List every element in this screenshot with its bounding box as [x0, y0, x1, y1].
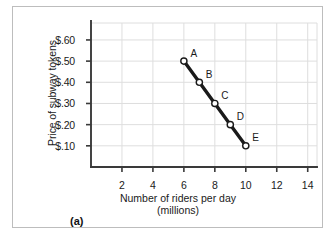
- x-axis-title-main: Number of riders per day: [120, 192, 236, 204]
- grid-lines: [91, 23, 317, 167]
- data-point-b: [196, 79, 202, 85]
- data-point-label-b: B: [206, 69, 213, 80]
- axis-tick-marks: [86, 40, 308, 172]
- plot-area: ABCDE: [79, 19, 319, 181]
- x-axis-title: Number of riders per day (millions): [53, 193, 303, 216]
- y-axis-tick-label: $.30: [27, 97, 75, 109]
- figure-frame: Price of subway tokens $.10$.20$.30$.40$…: [12, 6, 323, 228]
- data-point-label-e: E: [252, 132, 259, 143]
- data-point-e: [243, 143, 249, 149]
- data-point-c: [212, 100, 218, 106]
- y-axis-tick-label: $.10: [27, 140, 75, 152]
- x-axis-tick-label: 14: [295, 179, 321, 191]
- demand-curve-chart: ABCDE: [79, 19, 319, 181]
- y-axis-tick-label: $.60: [27, 34, 75, 46]
- data-point-labels: ABCDE: [190, 48, 259, 144]
- y-axis-tick-label: $.40: [27, 76, 75, 88]
- axis-lines: [91, 21, 317, 167]
- y-axis-tick-label: $.20: [27, 119, 75, 131]
- data-point-label-c: C: [221, 90, 228, 101]
- x-axis-tick-label: 8: [202, 179, 228, 191]
- panel-caption: (a): [70, 215, 83, 227]
- data-point-label-d: D: [237, 111, 244, 122]
- x-axis-tick-label: 12: [264, 179, 290, 191]
- x-axis-tick-label: 4: [140, 179, 166, 191]
- x-axis-tick-label: 6: [171, 179, 197, 191]
- data-point-a: [181, 58, 187, 64]
- x-axis-tick-label: 10: [233, 179, 259, 191]
- x-axis-title-unit: (millions): [53, 205, 303, 217]
- data-point-d: [227, 122, 233, 128]
- x-axis-tick-label: 2: [109, 179, 135, 191]
- y-axis-tick-label: $.50: [27, 55, 75, 67]
- data-point-label-a: A: [190, 48, 197, 59]
- y-axis-tick-label-group: $.10$.20$.30$.40$.50$.60: [27, 25, 75, 175]
